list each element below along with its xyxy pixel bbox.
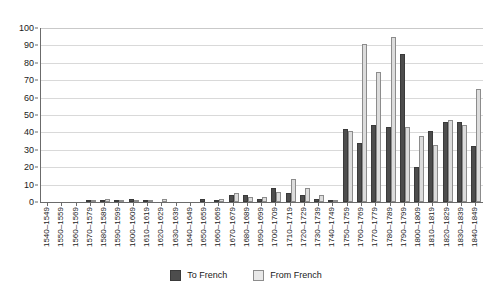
x-axis-tick-label: 1840–1849 <box>471 207 479 247</box>
x-axis-tick: 1810–1819 <box>425 203 439 265</box>
y-axis-tick-label: 70 <box>24 76 34 85</box>
x-axis-tick-label: 1670–1679 <box>229 207 237 247</box>
x-axis-tick-label: 1660–1669 <box>214 207 222 247</box>
bar-from-french <box>419 136 424 202</box>
bar-from-french <box>433 145 438 202</box>
bar-group <box>326 28 340 202</box>
x-axis-tick-mark <box>318 203 319 206</box>
x-axis-tick-mark <box>361 203 362 206</box>
x-axis-tick: 1640–1649 <box>183 203 197 265</box>
x-axis-tick: 1660–1669 <box>211 203 225 265</box>
x-axis-tick-mark <box>461 203 462 206</box>
bar-group <box>298 28 312 202</box>
x-axis-tick: 1800–1809 <box>411 203 425 265</box>
x-axis-tick-label: 1570–1579 <box>86 207 94 247</box>
x-axis-tick-mark <box>275 203 276 206</box>
bar-from-french <box>391 37 396 202</box>
x-axis-tick-mark <box>47 203 48 206</box>
bar-from-french <box>305 188 310 202</box>
bar-from-french <box>262 197 267 202</box>
y-axis-tick-mark <box>35 97 38 98</box>
bar-group <box>426 28 440 202</box>
x-axis-tick: 1560–1569 <box>69 203 83 265</box>
x-axis-tick: 1740–1749 <box>325 203 339 265</box>
bar-from-french <box>162 199 167 202</box>
bar-group <box>41 28 55 202</box>
y-axis-tick-mark <box>35 45 38 46</box>
bar-group <box>155 28 169 202</box>
bar-group <box>355 28 369 202</box>
x-axis-tick-mark <box>104 203 105 206</box>
x-axis-tick: 1690–1699 <box>254 203 268 265</box>
bar-group <box>127 28 141 202</box>
x-axis-tick-label: 1560–1569 <box>72 207 80 247</box>
x-axis-tick-mark <box>375 203 376 206</box>
x-axis-tick-label: 1550–1559 <box>57 207 65 247</box>
bar-group <box>341 28 355 202</box>
bar-group <box>112 28 126 202</box>
x-axis-tick: 1720–1729 <box>297 203 311 265</box>
x-axis-tick-label: 1800–1809 <box>414 207 422 247</box>
legend-label: To French <box>187 271 227 280</box>
legend-swatch-icon <box>170 270 181 281</box>
x-axis-tick-label: 1710–1719 <box>286 207 294 247</box>
x-axis-tick-label: 1580–1589 <box>100 207 108 247</box>
x-axis-tick-mark <box>76 203 77 206</box>
x-axis-tick-label: 1780–1789 <box>386 207 394 247</box>
y-axis: 0102030405060708090100 <box>0 20 38 210</box>
x-axis-tick-mark <box>447 203 448 206</box>
x-axis-tick-label: 1650–1659 <box>200 207 208 247</box>
x-axis-tick-label: 1740–1749 <box>328 207 336 247</box>
x-axis-tick: 1820–1829 <box>439 203 453 265</box>
x-axis-tick-mark <box>204 203 205 206</box>
x-axis-tick-mark <box>418 203 419 206</box>
bar-group <box>169 28 183 202</box>
x-axis-tick-mark <box>161 203 162 206</box>
x-axis-tick-label: 1690–1699 <box>257 207 265 247</box>
bar-from-french <box>119 200 124 202</box>
bar-group <box>84 28 98 202</box>
bar-group <box>198 28 212 202</box>
x-axis-tick-label: 1620–1629 <box>157 207 165 247</box>
x-axis-tick-mark <box>247 203 248 206</box>
x-axis-tick: 1760–1769 <box>354 203 368 265</box>
bar-from-french <box>462 125 467 202</box>
x-axis-tick: 1840–1849 <box>468 203 482 265</box>
x-axis-tick-mark <box>261 203 262 206</box>
x-axis-tick: 1580–1589 <box>97 203 111 265</box>
y-axis-tick-mark <box>35 115 38 116</box>
bar-group <box>455 28 469 202</box>
x-axis-tick-label: 1610–1619 <box>143 207 151 247</box>
plot-area <box>40 28 483 203</box>
y-axis-tick-label: 50 <box>24 111 34 120</box>
x-axis-tick-mark <box>218 203 219 206</box>
x-axis-tick: 1550–1559 <box>54 203 68 265</box>
x-axis-tick-label: 1720–1729 <box>300 207 308 247</box>
x-axis-tick: 1770–1779 <box>368 203 382 265</box>
bar-group <box>55 28 69 202</box>
x-axis-tick-mark <box>390 203 391 206</box>
x-axis-tick-mark <box>304 203 305 206</box>
x-axis-tick-label: 1760–1769 <box>357 207 365 247</box>
bar-group <box>369 28 383 202</box>
bar-from-french <box>333 200 338 202</box>
y-axis-tick-mark <box>35 202 38 203</box>
bar-from-french <box>105 199 110 202</box>
x-axis-tick-mark <box>290 203 291 206</box>
x-axis-tick: 1540–1549 <box>40 203 54 265</box>
bar-from-french <box>362 44 367 202</box>
y-axis-tick-label: 0 <box>29 198 34 207</box>
x-axis-tick-mark <box>118 203 119 206</box>
x-axis-tick: 1680–1689 <box>240 203 254 265</box>
x-axis-tick-mark <box>90 203 91 206</box>
x-axis-tick: 1590–1599 <box>111 203 125 265</box>
x-axis-tick: 1790–1799 <box>397 203 411 265</box>
bar-group <box>241 28 255 202</box>
bar-group <box>440 28 454 202</box>
x-axis-tick-label: 1590–1599 <box>114 207 122 247</box>
y-axis-tick-label: 30 <box>24 145 34 154</box>
bar-from-french <box>348 131 353 202</box>
x-axis-tick: 1730–1739 <box>311 203 325 265</box>
bar-group <box>383 28 397 202</box>
x-axis-tick-label: 1810–1819 <box>428 207 436 247</box>
